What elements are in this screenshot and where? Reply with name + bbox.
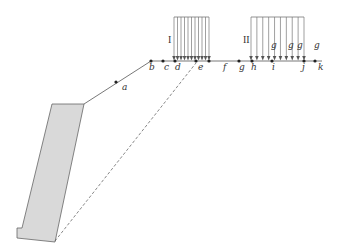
load-arrow-head — [290, 56, 294, 61]
load-arrow-head — [204, 56, 208, 61]
point-d-label: d — [175, 62, 181, 72]
load-block-I — [172, 17, 211, 61]
load-arrow-head — [267, 56, 271, 61]
g-label-2: g — [288, 40, 294, 50]
point-k-marker — [313, 59, 316, 62]
load-arrow-head — [197, 56, 201, 61]
load-arrow-head — [255, 56, 259, 61]
point-b-label: b — [149, 62, 155, 72]
g-label-4: g — [314, 40, 320, 50]
load-arrow-head — [261, 56, 265, 61]
point-f-label: f — [222, 62, 228, 72]
load-arrow-head — [273, 56, 277, 61]
load-arrow-head — [176, 56, 180, 61]
point-h-label: h — [251, 62, 257, 72]
retaining-wall — [17, 104, 84, 242]
point-k-label: k — [318, 62, 323, 72]
point-g-label: g — [239, 62, 245, 72]
diagram-canvas: abcdefghijk I II g g g g — [0, 0, 338, 246]
point-i-label: i — [272, 62, 275, 72]
load-arrow-head — [285, 56, 289, 61]
point-e-label: e — [198, 62, 203, 72]
point-a-label: a — [122, 82, 127, 92]
load-label-I: I — [168, 34, 171, 45]
point-f-marker — [207, 59, 210, 62]
point-a-marker — [114, 80, 117, 83]
load-arrow-head — [279, 56, 283, 61]
load-arrow-head — [190, 56, 194, 61]
g-label-1: g — [271, 40, 277, 50]
load-arrow-head — [183, 56, 187, 61]
point-c-label: c — [164, 62, 169, 72]
g-label-3: g — [297, 40, 303, 50]
point-j-label: j — [300, 62, 305, 72]
load-arrow-head — [186, 56, 190, 61]
load-block-II — [249, 17, 306, 61]
load-arrow-head — [296, 56, 300, 61]
load-arrow-head — [179, 56, 183, 61]
load-arrow-head — [200, 56, 204, 61]
load-label-II: II — [243, 34, 250, 45]
